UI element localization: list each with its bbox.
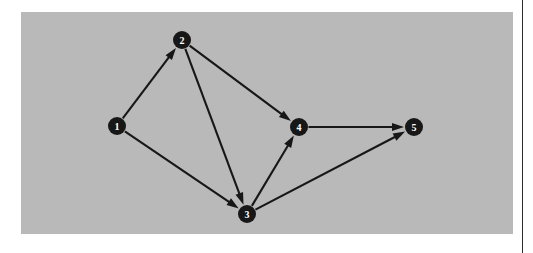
directed-graph-canvas: 12345 (21, 12, 513, 234)
edge-arrowhead (227, 198, 239, 208)
page-vertical-rule (522, 0, 523, 253)
edge-arrowhead (393, 132, 405, 141)
graph-edge-1-to-3 (125, 131, 239, 208)
node-circle[interactable] (405, 118, 423, 136)
node-circle[interactable] (108, 117, 126, 135)
node-circle[interactable] (238, 205, 256, 223)
graph-edge-2-to-3 (185, 49, 243, 205)
graph-node-1[interactable]: 1 (108, 117, 126, 135)
edge-arrowhead (236, 192, 244, 205)
node-circle[interactable] (290, 118, 308, 136)
graph-node-2[interactable]: 2 (173, 31, 191, 49)
graph-edge-3-to-5 (255, 132, 405, 210)
edge-line (190, 46, 283, 115)
graph-node-4[interactable]: 4 (290, 118, 308, 136)
edges-layer (123, 46, 405, 210)
graph-edge-4-to-5 (309, 123, 405, 131)
edge-line (185, 49, 240, 195)
graph-edge-2-to-4 (190, 46, 291, 121)
edge-line (255, 136, 396, 209)
node-circle[interactable] (173, 31, 191, 49)
edge-line (123, 56, 170, 118)
figure-page: 12345 (0, 0, 533, 253)
edge-arrowhead (392, 123, 404, 131)
edge-line (252, 144, 289, 206)
edge-line (125, 131, 231, 202)
graph-figure-panel: 12345 (21, 12, 513, 234)
graph-edge-3-to-4 (252, 136, 294, 206)
graph-edge-1-to-2 (123, 48, 176, 118)
edge-arrowhead (284, 136, 294, 148)
graph-node-5[interactable]: 5 (405, 118, 423, 136)
graph-node-3[interactable]: 3 (238, 205, 256, 223)
